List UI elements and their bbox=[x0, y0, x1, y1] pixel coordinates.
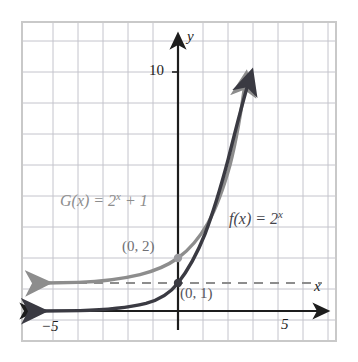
coordinate-plane bbox=[0, 0, 358, 362]
y-axis-label: y bbox=[187, 28, 194, 45]
point-marker-0-2 bbox=[174, 254, 182, 262]
curve-f-label-exponent: x bbox=[278, 208, 283, 220]
x-axis-label: x bbox=[314, 278, 321, 295]
x-tick-label-neg5: −5 bbox=[41, 318, 59, 335]
point-label-0-1: (0, 1) bbox=[180, 285, 213, 302]
curve-f-label-base: f(x) = 2 bbox=[229, 210, 278, 227]
x-tick-label-5: 5 bbox=[281, 316, 289, 333]
point-label-0-2: (0, 2) bbox=[122, 238, 155, 255]
y-tick-label-10: 10 bbox=[149, 62, 164, 79]
curve-g-label-tail: + 1 bbox=[121, 192, 148, 209]
curve-g-label: G(x) = 2x + 1 bbox=[60, 190, 148, 210]
graph-figure: y x 10 −5 5 G(x) = 2x + 1 f(x) = 2x (0, … bbox=[0, 0, 358, 362]
curve-f-label: f(x) = 2x bbox=[229, 208, 283, 228]
curve-g-label-base: G(x) = 2 bbox=[60, 192, 116, 209]
